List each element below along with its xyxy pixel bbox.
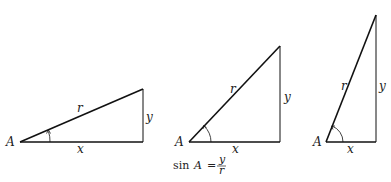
adjacent-label: x: [77, 142, 84, 156]
hypotenuse-label: r: [230, 82, 237, 96]
formula-equals: =: [207, 159, 216, 172]
triangle-steep: A r y x: [312, 15, 386, 156]
opposite-label: y: [283, 90, 291, 104]
angle-arc-icon: [332, 126, 343, 142]
vertex-label: A: [174, 135, 184, 149]
sine-diagram: A r y x A r y x A r y x sin A = y r: [0, 0, 391, 182]
angle-arc-icon: [49, 132, 51, 143]
adjacent-label: x: [232, 142, 239, 156]
formula-func: sin: [173, 159, 189, 172]
opposite-label: y: [145, 110, 153, 124]
vertex-label: A: [5, 135, 15, 149]
vertex-label: A: [312, 135, 322, 149]
formula-var: A: [193, 159, 202, 172]
triangle-medium: A r y x: [174, 46, 291, 156]
adjacent-label: x: [347, 142, 354, 156]
angle-arc-icon: [204, 126, 211, 142]
triangle-shallow: A r y x: [5, 89, 153, 156]
hypotenuse-label: r: [77, 101, 84, 115]
opposite-label: y: [378, 79, 386, 93]
sine-formula: sin A = y r: [173, 153, 226, 177]
formula-denominator: r: [219, 164, 225, 177]
